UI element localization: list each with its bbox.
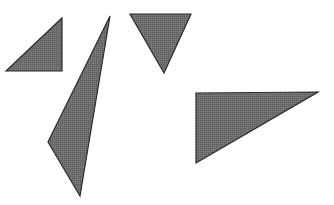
triangles-svg: [0, 0, 334, 205]
image-canvas: [0, 0, 334, 205]
